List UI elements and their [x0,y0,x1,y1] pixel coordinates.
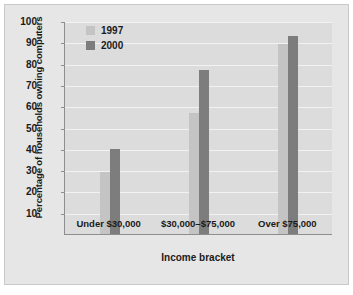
y-tick-label: 40 [11,144,37,155]
y-tick-mark [61,22,65,23]
y-tick-label: 70 [11,80,37,91]
bar-2000-2 [199,70,209,234]
y-tick-mark [61,107,65,108]
bar-chart-figure: Percentage of households owning computer… [0,0,353,295]
y-tick-mark [61,86,65,87]
y-tick-label: 20 [11,186,37,197]
bar-group [278,22,298,234]
legend-swatch-icon [86,26,95,35]
bar-2000-3 [288,36,298,234]
y-tick-label: 10 [11,208,37,219]
y-tick-label: 50 [11,123,37,134]
y-tick-mark [61,43,65,44]
bar-1997-2 [189,113,199,234]
bar-1997-3 [278,44,288,234]
legend: 19972000 [86,24,123,54]
y-tick-label: 90 [11,37,37,48]
y-tick-mark [61,192,65,193]
y-tick-label: 30 [11,165,37,176]
legend-label: 2000 [101,40,123,51]
y-tick-mark [61,150,65,151]
x-tick-label: Over $75,000 [258,218,317,229]
legend-item-1997: 1997 [86,24,123,37]
legend-swatch-icon [86,41,95,50]
legend-item-2000: 2000 [86,39,123,52]
y-tick-label: 60 [11,101,37,112]
x-axis-title: Income bracket [64,252,332,263]
x-tick-label: $30,000–$75,000 [161,218,235,229]
y-tick-mark [61,214,65,215]
x-tick-label: Under $30,000 [76,218,140,229]
y-tick-label: 100 [11,16,37,27]
y-tick-label: 80 [11,59,37,70]
y-tick-mark [61,171,65,172]
y-tick-mark [61,129,65,130]
bar-group [189,22,209,234]
y-tick-mark [61,65,65,66]
legend-label: 1997 [101,25,123,36]
